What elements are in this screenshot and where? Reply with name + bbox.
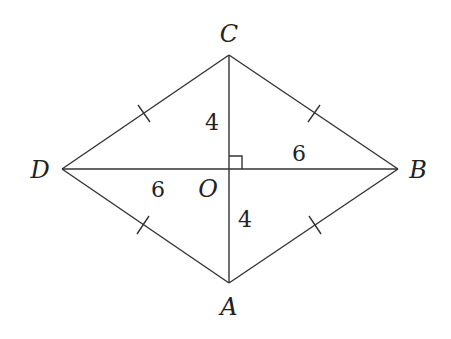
right-angle-marker — [229, 156, 242, 169]
side-dc — [62, 55, 229, 169]
rhombus-diagram: C D B A O 4 6 6 4 — [0, 0, 451, 339]
vertex-label-a: A — [218, 293, 237, 321]
tick-da — [137, 216, 149, 234]
vertex-label-c: C — [220, 20, 238, 48]
tick-cb — [308, 105, 320, 122]
side-cb — [229, 55, 398, 169]
center-label-o: O — [198, 175, 218, 203]
label-ob: 6 — [292, 141, 306, 166]
vertex-label-d: D — [29, 156, 49, 184]
label-oc: 4 — [205, 110, 219, 135]
label-oa: 4 — [238, 207, 252, 232]
tick-dc — [138, 105, 150, 122]
tick-ab — [309, 216, 321, 234]
vertex-label-b: B — [408, 156, 427, 184]
label-od: 6 — [151, 177, 165, 202]
side-ba — [229, 169, 398, 283]
